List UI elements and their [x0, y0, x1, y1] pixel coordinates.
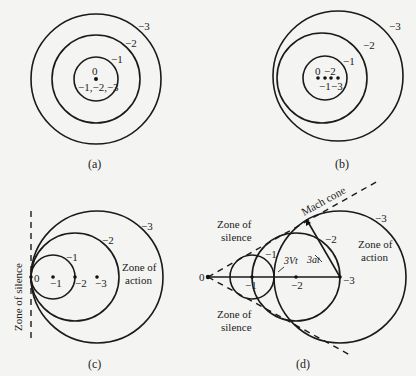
ring-label-3: −3 [138, 20, 150, 32]
ring-label-1: −1 [66, 251, 78, 263]
label-1: −1 [245, 279, 257, 291]
ring-label-3: −3 [375, 212, 387, 224]
zone-of-action-line2: action [125, 274, 152, 286]
ring-label-1: −1 [111, 53, 123, 65]
panel-d: 0 −1 −2 −3 −1 −2 −3 3Vt 3at Mach cone Zo… [199, 181, 406, 371]
panel-c: 0 −1 −2 −3 −1 −2 −3 Zone of silence Zone… [12, 211, 163, 371]
label-2: −2 [324, 65, 336, 77]
wavefront-3 [273, 11, 403, 141]
zone-silence-bottom-line2: silence [221, 321, 252, 333]
source-point-0 [29, 275, 33, 279]
label-3: −3 [331, 80, 343, 92]
label-0: 0 [315, 65, 321, 77]
ring-label-2: −2 [102, 234, 114, 246]
label-0: 0 [34, 272, 40, 284]
label-3vt: 3Vt [283, 255, 298, 266]
zone-silence-bottom-line1: Zone of [217, 308, 252, 320]
caption-d: (d) [296, 357, 310, 371]
ring-label-2: −2 [363, 39, 375, 51]
panel-a: 0 −1,−2,−3 −1 −2 −3 (a) [31, 14, 161, 171]
label-2: −2 [291, 279, 303, 291]
zone-of-action-line1: Zone of [122, 261, 157, 273]
label-3: −3 [95, 277, 107, 289]
source-point-3 [338, 275, 342, 279]
caption-b: (b) [335, 157, 349, 171]
ring-label-1: −1 [343, 55, 355, 67]
leader-3vt [278, 267, 284, 272]
panel-b: 0 −2 −1 −3 −1 −2 −3 (b) [273, 11, 403, 171]
caption-a: (a) [88, 157, 101, 171]
zone-silence-top-line1: Zone of [217, 218, 252, 230]
zone-silence-top-line2: silence [221, 231, 252, 243]
zone-action-line1: Zone of [358, 238, 393, 250]
wavefront-2 [277, 33, 367, 123]
caption-c: (c) [88, 357, 101, 371]
label-0: 0 [199, 271, 205, 283]
label-center-bottom: −1,−2,−3 [78, 81, 119, 93]
source-point-0 [206, 275, 210, 279]
ring-label-2: −2 [125, 37, 137, 49]
zone-of-silence-label: Zone of silence [12, 263, 24, 331]
wave-propagation-diagram: 0 −1,−2,−3 −1 −2 −3 (a) 0 −2 −1 −3 −1 −2… [0, 0, 416, 376]
label-2: −2 [75, 277, 87, 289]
ring-label-1: −1 [265, 248, 277, 260]
ring-label-2: −2 [325, 233, 337, 245]
label-1: −1 [319, 80, 331, 92]
label-3: −3 [343, 274, 355, 286]
label-1: −1 [50, 277, 62, 289]
zone-action-line2: action [361, 251, 388, 263]
label-3at: 3at [306, 254, 320, 265]
diagram-canvas: 0 −1,−2,−3 −1 −2 −3 (a) 0 −2 −1 −3 −1 −2… [0, 0, 416, 376]
ring-label-3: −3 [141, 220, 153, 232]
label-0: 0 [92, 65, 98, 77]
radius-3at-line [308, 222, 340, 277]
ring-label-3: −3 [389, 20, 401, 32]
